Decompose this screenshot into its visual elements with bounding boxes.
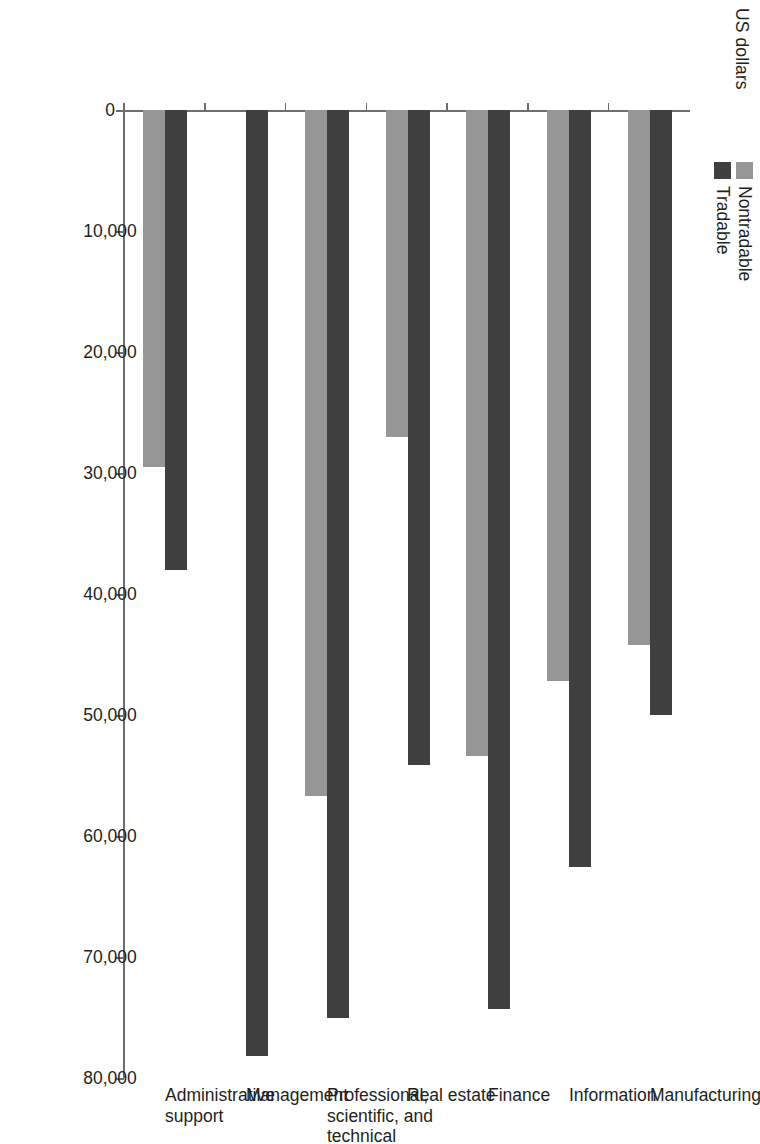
- bar-tradable: [327, 110, 349, 1018]
- value-tick-label: 20,000: [83, 342, 137, 363]
- category-tick: [204, 103, 206, 110]
- value-tick-label: 50,000: [83, 705, 137, 726]
- value-axis-title: US dollars: [731, 8, 752, 90]
- bar-group: [367, 110, 448, 1078]
- bar-tradable: [165, 110, 187, 570]
- legend-swatch-tradable: [714, 162, 731, 179]
- value-tick: [116, 110, 124, 112]
- legend-swatch-nontradable: [736, 162, 753, 179]
- bar-chart: US dollars Nontradable Tradable Manufact…: [0, 0, 760, 1144]
- bar-tradable: [488, 110, 510, 1009]
- bar-nontradable: [547, 110, 569, 681]
- bar-nontradable: [628, 110, 650, 645]
- category-tick: [123, 103, 125, 110]
- value-tick-label: 70,000: [83, 947, 137, 968]
- bar-tradable: [246, 110, 268, 1056]
- value-tick-label: 40,000: [83, 584, 137, 605]
- bar-group: [529, 110, 610, 1078]
- legend-item-tradable: Tradable: [714, 162, 731, 281]
- value-tick-label: 80,000: [83, 1068, 137, 1089]
- bar-nontradable: [305, 110, 327, 796]
- value-tick-label: 30,000: [83, 463, 137, 484]
- legend-item-nontradable: Nontradable: [736, 162, 753, 281]
- chart-legend: Nontradable Tradable: [714, 162, 753, 281]
- bar-nontradable: [386, 110, 408, 437]
- legend-label-tradable: Tradable: [714, 186, 731, 254]
- bar-group: [286, 110, 367, 1078]
- category-tick: [366, 103, 368, 110]
- bar-nontradable: [143, 110, 165, 467]
- bar-nontradable: [466, 110, 488, 756]
- bar-group: [206, 110, 287, 1078]
- bar-tradable: [569, 110, 591, 867]
- category-tick: [608, 103, 610, 110]
- bar-group: [609, 110, 690, 1078]
- bar-group: [448, 110, 529, 1078]
- category-tick: [527, 103, 529, 110]
- category-tick: [446, 103, 448, 110]
- value-tick-label: 60,000: [83, 826, 137, 847]
- bar-tradable: [650, 110, 672, 715]
- value-tick-label: 10,000: [83, 221, 137, 242]
- rotated-chart-canvas: US dollars Nontradable Tradable Manufact…: [0, 0, 760, 1144]
- category-tick: [285, 103, 287, 110]
- legend-label-nontradable: Nontradable: [736, 186, 753, 281]
- value-tick-label: 0: [105, 100, 115, 121]
- bar-tradable: [408, 110, 430, 765]
- plot-area: [125, 110, 690, 1078]
